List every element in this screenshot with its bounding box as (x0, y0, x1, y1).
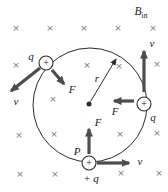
charge-symbol-upper-left: + (43, 58, 49, 68)
charge-symbol-bottom: + (86, 158, 92, 168)
charge-label-right: q (150, 112, 156, 123)
force-label-right: F (112, 106, 119, 117)
velocity-label-right: v (150, 38, 155, 49)
charge-label-upper-left: q (28, 51, 34, 62)
charge-symbol-right: + (141, 99, 147, 109)
field-subscript: in (142, 11, 148, 20)
velocity-label-bottom: v (138, 156, 143, 167)
physics-diagram: ×××××××××××××××××× Bin (0, 0, 168, 192)
force-label-bottom: F (95, 117, 102, 128)
charge-label-bottom: + q (83, 173, 99, 184)
field-symbol-b: B (135, 5, 142, 17)
velocity-label-upper-left: v (14, 96, 19, 107)
radius-label: r (95, 73, 99, 84)
point-label: P (74, 146, 81, 157)
force-label-upper-left: F (69, 84, 76, 95)
label-layer: Bin + + + q v F q v F + q v F r P (0, 0, 168, 192)
field-label: Bin (135, 6, 148, 20)
